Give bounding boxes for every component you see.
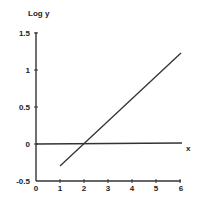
y-axis-title: Log y: [28, 9, 50, 18]
y-tick-label: 0.5: [19, 103, 31, 112]
x-tick-label: 6: [179, 184, 184, 193]
y-tick-label: -0.5: [16, 177, 30, 186]
x-tick-label: 5: [154, 184, 159, 193]
x-tick-label: 1: [58, 184, 63, 193]
x-axis-title: x: [186, 144, 191, 153]
x-tick-label: 4: [130, 184, 135, 193]
y-tick-label: 1: [26, 66, 31, 75]
data-line: [60, 53, 181, 166]
x-tick-label: 3: [106, 184, 111, 193]
y-tick-label: 1.5: [19, 29, 31, 38]
x-tick-label: 0: [34, 184, 39, 193]
y-tick-label: 0: [26, 140, 31, 149]
x-tick-label: 2: [82, 184, 87, 193]
chart: 1.5 1 0.5 0 -0.5 0 1 2 3 4 5 6 Log y x: [0, 0, 200, 199]
zero-reference-line: [36, 143, 182, 144]
